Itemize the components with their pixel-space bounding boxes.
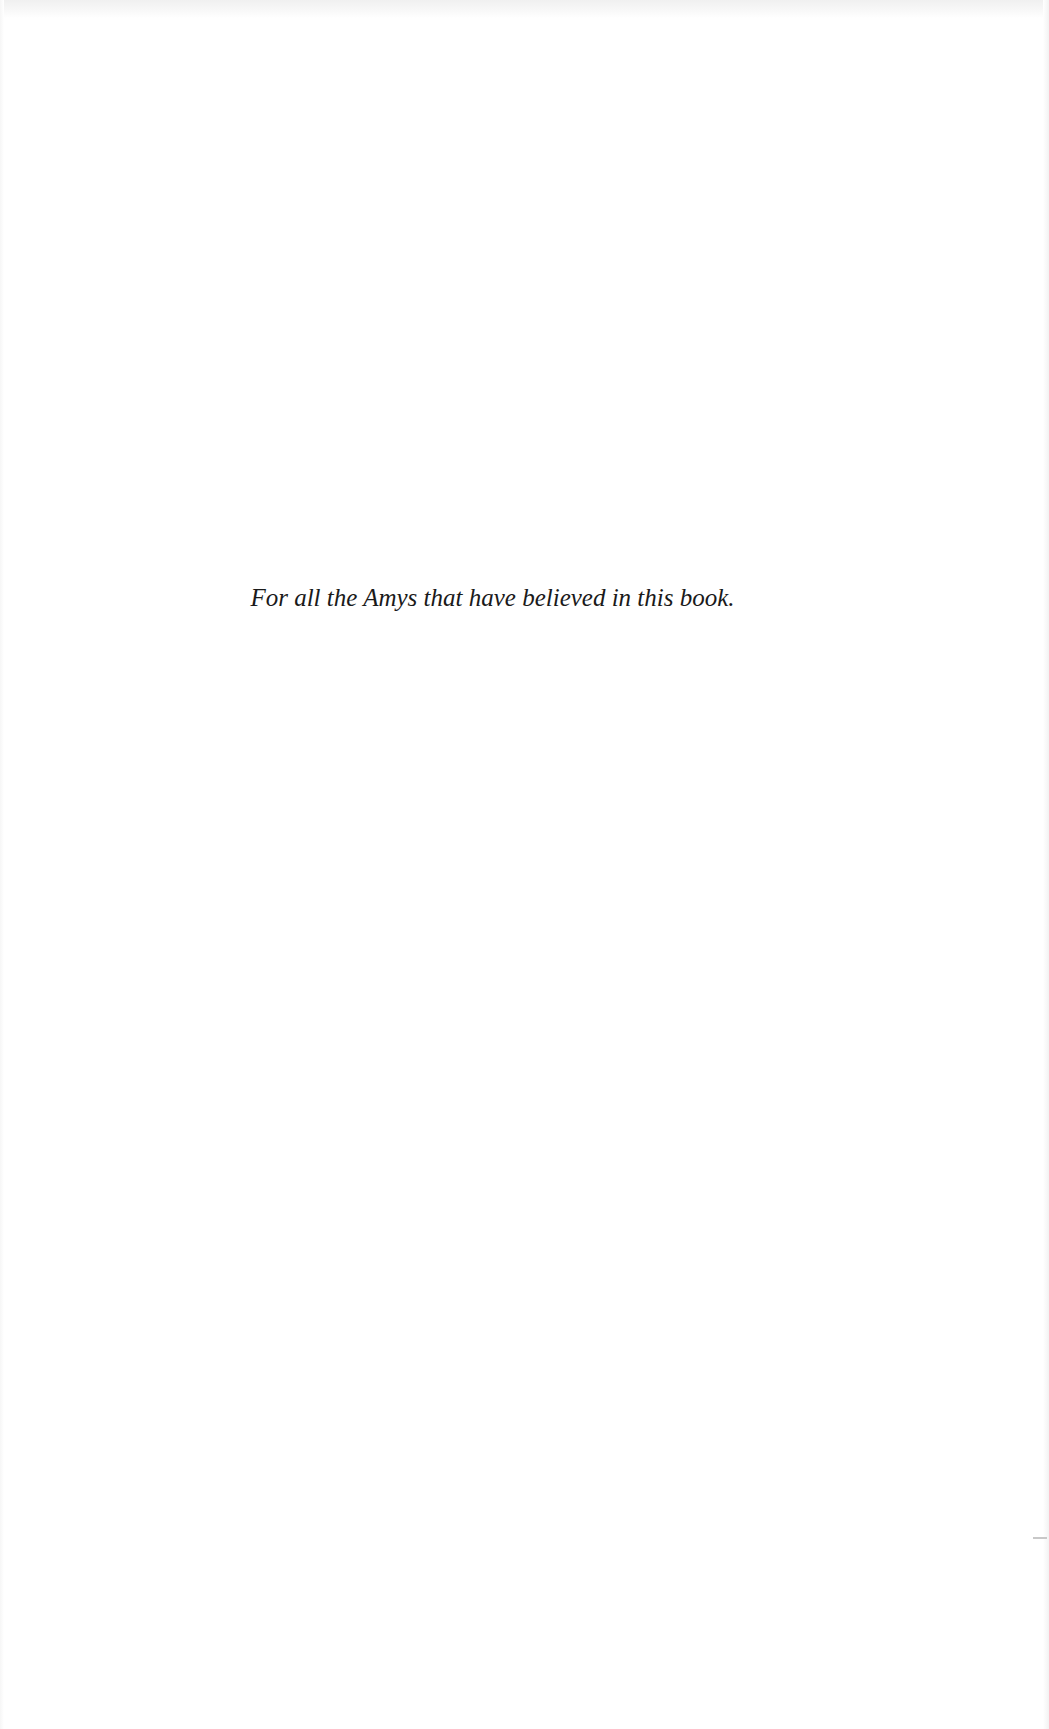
scan-edge-mark xyxy=(1033,1537,1047,1539)
scan-top-edge xyxy=(0,0,1049,18)
dedication: For all the Amys that have believed in t… xyxy=(0,583,1049,613)
scan-left-edge xyxy=(0,0,4,1729)
book-page: For all the Amys that have believed in t… xyxy=(0,0,1049,1729)
dedication-text: For all the Amys that have believed in t… xyxy=(250,583,734,613)
scan-right-edge xyxy=(1043,0,1049,1729)
